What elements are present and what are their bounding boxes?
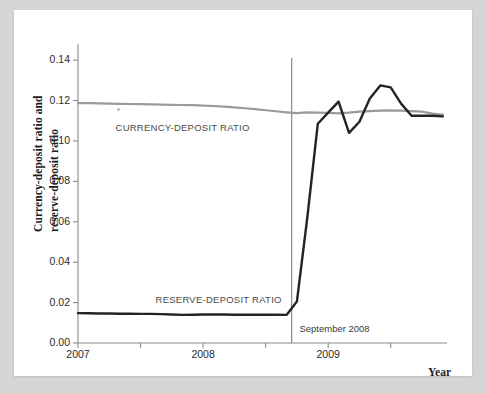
y-tick-label: 0.14: [30, 53, 70, 65]
x-tick-label: 2008: [173, 348, 233, 360]
y-tick-label: 0.04: [30, 255, 70, 267]
x-axis-title: Year: [428, 366, 451, 378]
series-layer: [78, 85, 443, 315]
series-label-currency-deposit-ratio: CURRENCY-DEPOSIT RATIO: [116, 122, 250, 133]
y-tick-label: 0.02: [30, 296, 70, 308]
y-tick-label: 0.06: [30, 215, 70, 227]
annotation-label-september-2008: September 2008: [299, 323, 369, 334]
y-axis-title-line1: Currency-deposit ratio and: [32, 95, 44, 232]
figure-root: Currency-deposit ratio and reserve-depos…: [0, 0, 486, 394]
y-tick-label: 0.08: [30, 174, 70, 186]
y-tick-label: 0.10: [30, 134, 70, 146]
series-label-reserve-deposit-ratio: RESERVE-DEPOSIT RATIO: [156, 294, 282, 305]
x-tick-label: 2009: [298, 348, 358, 360]
y-tick-label: 0.00: [30, 336, 70, 348]
y-tick-label: 0.12: [30, 94, 70, 106]
paper-speck: [117, 108, 120, 111]
series-line-reserve-deposit-ratio: [78, 85, 443, 315]
chart-plot-area: [0, 0, 486, 394]
series-line-currency-deposit-ratio: [78, 103, 443, 115]
x-tick-label: 2007: [48, 348, 108, 360]
